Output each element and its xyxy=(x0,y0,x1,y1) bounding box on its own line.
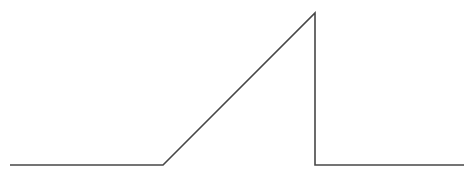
ramp-waveform-plot xyxy=(0,0,469,171)
waveform-line xyxy=(10,13,464,165)
waveform-diagram xyxy=(0,0,469,171)
